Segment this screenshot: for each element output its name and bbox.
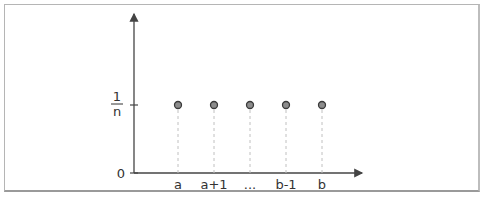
point-a <box>175 102 182 109</box>
y-label-1-den: n <box>113 104 121 119</box>
chart-canvas: 1 n 0 a a+1 ... b-1 b <box>0 0 485 200</box>
y-label-0: 0 <box>117 166 125 181</box>
point-ellipsis <box>247 102 254 109</box>
point-b <box>319 102 326 109</box>
x-label-b: b <box>318 177 326 192</box>
x-label-a: a <box>174 177 182 192</box>
point-b-minus-1 <box>283 102 290 109</box>
y-label-1-num: 1 <box>113 89 121 104</box>
x-label-ellipsis: ... <box>244 177 256 192</box>
x-label-a-plus-1: a+1 <box>200 177 227 192</box>
point-a-plus-1 <box>211 102 218 109</box>
x-label-b-minus-1: b-1 <box>275 177 296 192</box>
